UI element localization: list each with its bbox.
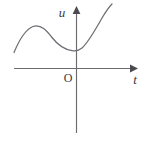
coordinate-plot: u t O [0,0,152,141]
origin-label: O [64,71,73,85]
arrow-up-icon [73,6,81,14]
graph-figure: u t O [0,0,152,141]
u-axis-label: u [59,5,66,20]
t-axis-label: t [133,72,137,87]
